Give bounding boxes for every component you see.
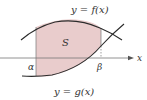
label-g: y = g(x) — [53, 86, 94, 97]
x-axis-arrow-icon — [128, 56, 134, 60]
label-beta: β — [96, 62, 102, 72]
area-diagram: y = f(x) y = g(x) S x α β — [0, 0, 147, 100]
label-s: S — [62, 37, 69, 48]
label-x: x — [137, 53, 142, 63]
label-alpha: α — [28, 62, 34, 72]
label-f: y = f(x) — [70, 4, 109, 15]
